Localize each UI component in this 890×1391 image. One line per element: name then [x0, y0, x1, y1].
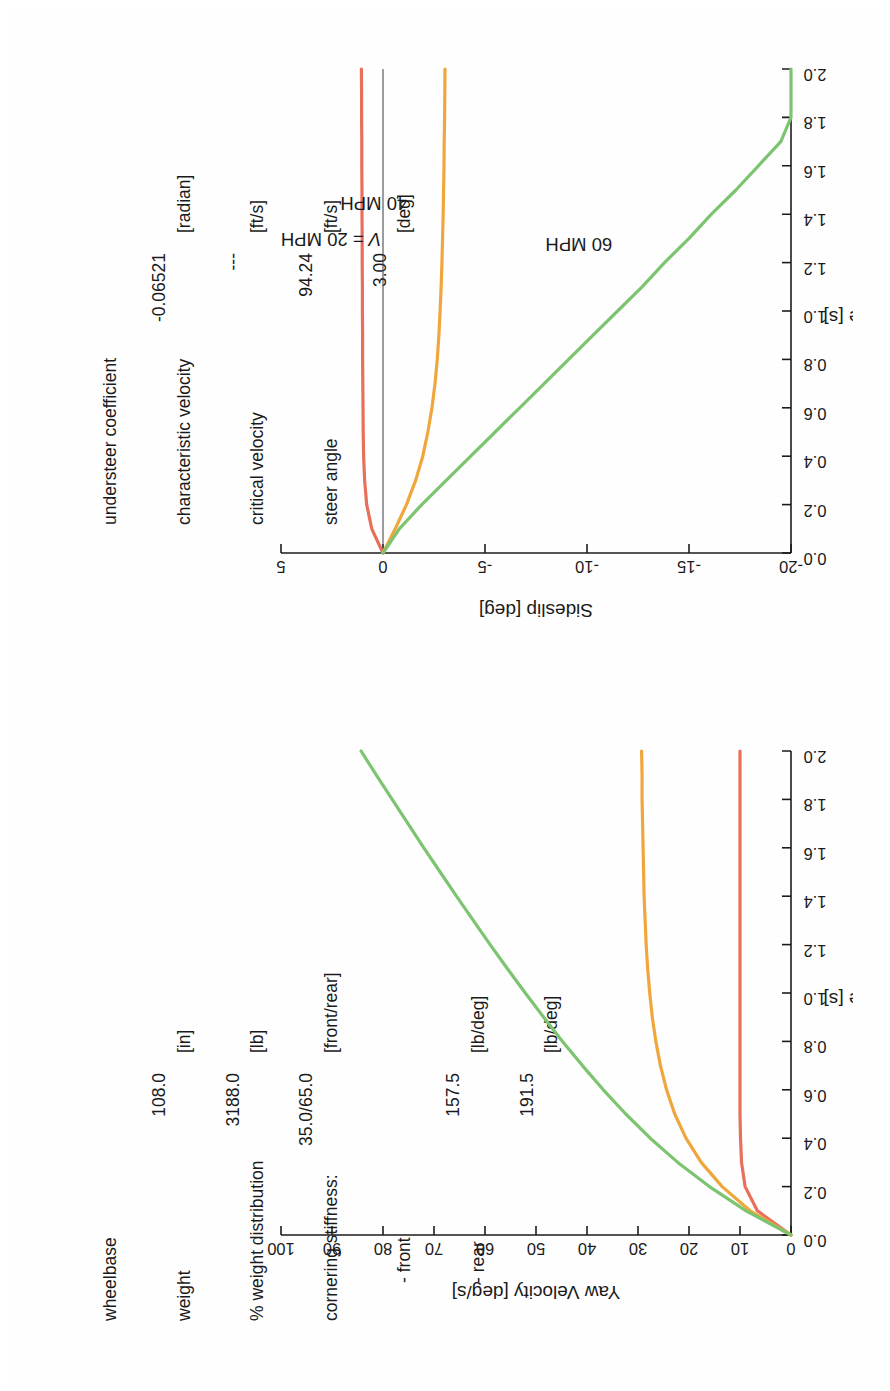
y-tick-label: 40 [578, 1240, 596, 1258]
param-value: 3188.0 [221, 1073, 246, 1201]
yaw-y-ticks [281, 1226, 791, 1235]
x-tick-label: 1.6 [804, 845, 827, 863]
x-tick-label: 1.4 [804, 211, 827, 229]
yaw-velocity-plot: 0102030405060708090100 0.00.20.40.60.81.… [267, 727, 853, 1347]
param-unit: [ft/s] [245, 200, 270, 233]
param-label: characteristic velocity [172, 359, 197, 525]
x-tick-label: 0.8 [804, 1038, 827, 1056]
y-tick-label: 30 [629, 1240, 647, 1258]
sideslip-y-tick-labels: 50-5-10-15-20 [276, 558, 803, 576]
table-row: characteristic velocity --- [ft/s] [172, 476, 197, 525]
yaw-x-tick-labels: 0.00.20.40.60.81.01.21.41.61.82.0 [804, 748, 827, 1250]
param-unit: [lb] [245, 1030, 270, 1053]
x-tick-label: 0.4 [804, 453, 827, 471]
param-value: 108.0 [147, 1073, 172, 1201]
series-line-2 [383, 69, 445, 553]
param-value: -0.06521 [147, 253, 172, 375]
x-tick-label: 2.0 [804, 748, 827, 766]
x-tick-label: 1.2 [804, 942, 827, 960]
y-tick-label: -20 [779, 558, 803, 576]
sideslip-x-axis-title: Time [s] [824, 307, 853, 328]
yaw-x-ticks [782, 751, 791, 1235]
printed-sheet: wheelbase 108.0 [in] weight 3188.0 [lb] … [9, 7, 877, 1381]
y-tick-label: 10 [731, 1240, 749, 1258]
table-row: wheelbase 108.0 [in] [98, 1272, 123, 1321]
sideslip-x-ticks [782, 69, 791, 553]
sideslip-y-axis-title: Sideslip [deg] [479, 600, 593, 621]
y-tick-label: 80 [374, 1240, 392, 1258]
x-tick-label: 0.0 [804, 1232, 827, 1250]
y-tick-label: 0 [378, 558, 387, 576]
x-tick-label: 1.8 [804, 796, 827, 814]
y-tick-label: -10 [575, 558, 599, 576]
annotation-v40: 40 MPH [340, 193, 407, 214]
yaw-series-group [361, 751, 791, 1235]
x-tick-label: 0.6 [804, 1087, 827, 1105]
sideslip-series-group [361, 69, 791, 553]
y-tick-label: 5 [276, 558, 285, 576]
yaw-y-tick-labels: 0102030405060708090100 [267, 1240, 795, 1258]
y-tick-label: 100 [267, 1240, 295, 1258]
param-label: critical velocity [245, 412, 270, 525]
table-row: critical velocity 94.24 [ft/s] [245, 476, 270, 525]
param-label: % weight distribution [245, 1161, 270, 1322]
param-unit: [radian] [172, 175, 197, 233]
y-tick-label: 90 [323, 1240, 341, 1258]
annotation-v20: V = 20 MPH [281, 230, 381, 251]
param-label: wheelbase [98, 1237, 123, 1321]
sideslip-y-ticks [281, 544, 791, 553]
y-tick-label: 50 [527, 1240, 545, 1258]
param-label: understeer coefficient [98, 358, 123, 525]
x-tick-label: 1.0 [804, 308, 827, 326]
scanned-page: wheelbase 108.0 [in] weight 3188.0 [lb] … [0, 0, 890, 1391]
series-line-2 [642, 751, 791, 1235]
x-tick-label: 0.2 [804, 1184, 827, 1202]
yaw-velocity-svg: 0102030405060708090100 0.00.20.40.60.81.… [267, 727, 853, 1347]
annotation-v60: 60 MPH [545, 234, 612, 255]
x-tick-label: 1.8 [804, 114, 827, 132]
sideslip-x-axis: 0.00.20.40.60.81.01.21.41.61.82.0 [782, 66, 826, 568]
sideslip-svg: 50-5-10-15-20 0.00.20.40.60.81.01.21.41.… [267, 45, 853, 665]
x-tick-label: 0.8 [804, 356, 827, 374]
sideslip-x-tick-labels: 0.00.20.40.60.81.01.21.41.61.82.0 [804, 66, 827, 568]
x-tick-label: 0.0 [804, 550, 827, 568]
y-tick-label: 60 [476, 1240, 494, 1258]
sideslip-y-axis: 50-5-10-15-20 [276, 544, 803, 576]
yaw-x-axis-title: Time [s] [824, 989, 853, 1010]
x-tick-label: 1.4 [804, 893, 827, 911]
y-tick-label: -5 [478, 558, 493, 576]
param-value: --- [221, 253, 246, 375]
table-row: weight 3188.0 [lb] [172, 1272, 197, 1321]
y-tick-label: -15 [677, 558, 701, 576]
series-line-3 [361, 751, 791, 1235]
series-line-1 [361, 69, 383, 553]
yaw-x-axis: 0.00.20.40.60.81.01.21.41.61.82.0 [782, 748, 826, 1250]
x-tick-label: 1.6 [804, 163, 827, 181]
y-tick-label: 70 [425, 1240, 443, 1258]
table-row: % weight distribution 35.0/65.0 [front/r… [245, 1272, 270, 1321]
param-unit: [in] [172, 1030, 197, 1053]
yaw-y-axis-title: Yaw Velocity [deg/s] [452, 1282, 621, 1303]
sideslip-plot: 50-5-10-15-20 0.00.20.40.60.81.01.21.41.… [267, 45, 853, 665]
table-row: understeer coefficient -0.06521 [radian] [98, 476, 123, 525]
x-tick-label: 2.0 [804, 66, 827, 84]
x-tick-label: 1.2 [804, 260, 827, 278]
y-tick-label: 0 [786, 1240, 795, 1258]
x-tick-label: 0.4 [804, 1135, 827, 1153]
x-tick-label: 1.0 [804, 990, 827, 1008]
y-tick-label: 20 [680, 1240, 698, 1258]
yaw-y-axis: 0102030405060708090100 [267, 1226, 795, 1258]
x-tick-label: 0.2 [804, 502, 827, 520]
page-border-frame: wheelbase 108.0 [in] weight 3188.0 [lb] … [9, 7, 877, 1381]
param-label: weight [172, 1270, 197, 1321]
x-tick-label: 0.6 [804, 405, 827, 423]
